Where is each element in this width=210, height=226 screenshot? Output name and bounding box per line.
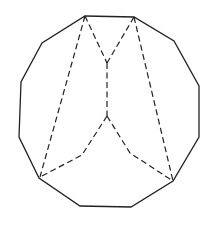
polyhedron-diagram — [0, 0, 210, 226]
hidden-edges — [40, 16, 173, 181]
top-right-to-upper-junction — [107, 17, 134, 63]
lower-right-bent-edge — [107, 116, 173, 181]
top-left-to-upper-junction — [85, 16, 107, 63]
lower-left-bent-edge — [40, 116, 107, 177]
right-long-edge — [134, 17, 173, 181]
